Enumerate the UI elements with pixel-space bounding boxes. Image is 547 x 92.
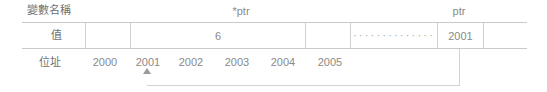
value-row-top-rule	[22, 22, 527, 23]
address-2003: 2003	[215, 56, 259, 69]
row-label-variable-name: 變數名稱	[27, 4, 71, 17]
address-2005: 2005	[308, 56, 352, 69]
pointer-link-horizontal	[147, 85, 460, 86]
variable-name-ptr: ptr	[429, 5, 489, 18]
row-label-value: 值	[33, 29, 79, 42]
address-2000: 2000	[83, 56, 127, 69]
value-cell-ellipsis: ··············	[351, 29, 437, 41]
variable-name-deref-ptr: *ptr	[211, 5, 271, 18]
memory-layout-diagram: 變數名稱 *ptr ptr 值 6 ·············· 2001 位址…	[0, 0, 547, 92]
cell-divider	[305, 23, 306, 48]
pointer-target-arrow-icon	[143, 68, 151, 74]
cell-divider	[483, 23, 484, 48]
address-2004: 2004	[261, 56, 305, 69]
pointer-link-vertical	[459, 49, 460, 86]
value-cell-2001: 2001	[438, 30, 483, 43]
value-row-bottom-rule	[22, 48, 527, 49]
value-cell-6: 6	[131, 30, 305, 43]
row-label-address: 位址	[39, 56, 61, 69]
cell-divider	[85, 23, 86, 48]
address-2002: 2002	[169, 56, 213, 69]
